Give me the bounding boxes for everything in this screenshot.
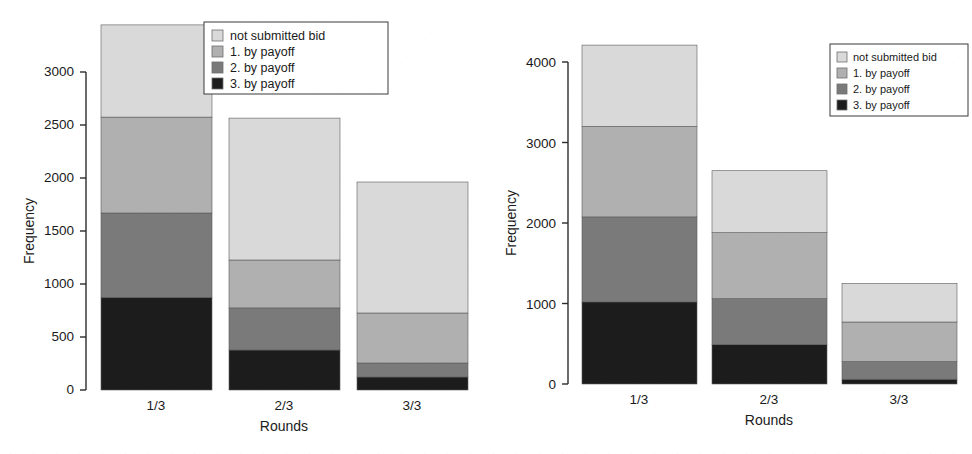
right-legend-swatch-not-submitted-bid [837, 52, 847, 62]
left-ytick-1000: 1000 [44, 276, 74, 291]
right-legend-swatch-1-by-payoff [837, 68, 847, 78]
right-ytick-3000: 3000 [526, 136, 556, 151]
left-x-axis-label: Rounds [260, 418, 308, 434]
right-ytick-0: 0 [548, 377, 556, 392]
left-legend-label-3-by-payoff: 3. by payoff [230, 77, 295, 91]
left-chart-svg: 3000 2500 2000 1500 1000 500 0 Frequency [0, 0, 486, 454]
left-y-axis-label: Frequency [21, 198, 37, 264]
right-legend-label-not-submitted-bid: not submitted bid [853, 51, 937, 63]
left-ytick-2000: 2000 [44, 170, 74, 185]
left-legend[interactable]: not submitted bid 1. by payoff 2. by pay… [204, 22, 388, 94]
left-legend-label-1-by-payoff: 1. by payoff [230, 45, 295, 59]
left-ytick-1500: 1500 [44, 223, 74, 238]
right-bar3-seg-1-by-payoff [842, 322, 957, 362]
right-ytick-4000: 4000 [526, 55, 556, 70]
left-xtick-2-3: 2/3 [275, 398, 294, 413]
left-bar2-seg-1-by-payoff [229, 260, 340, 308]
right-legend-label-2-by-payoff: 2. by payoff [853, 83, 911, 95]
right-legend[interactable]: not submitted bid 1. by payoff 2. by pay… [830, 44, 968, 116]
left-ytick-0: 0 [66, 382, 74, 397]
right-chart-panel: 4000 3000 2000 1000 0 Frequency [486, 0, 972, 454]
left-legend-label-not-submitted-bid: not submitted bid [230, 29, 325, 43]
right-legend-label-1-by-payoff: 1. by payoff [853, 67, 911, 79]
right-ytick-1000: 1000 [526, 297, 556, 312]
left-bar3-seg-1-by-payoff [357, 313, 468, 363]
right-bar3-seg-not-submitted-bid [842, 283, 957, 322]
right-bar3-seg-3-by-payoff [842, 379, 957, 384]
right-bar2-seg-1-by-payoff [712, 233, 827, 299]
left-legend-swatch-3-by-payoff [212, 78, 223, 89]
right-bar1-seg-not-submitted-bid [582, 45, 697, 126]
right-ytick-2000: 2000 [526, 216, 556, 231]
left-legend-swatch-not-submitted-bid [212, 30, 223, 41]
left-bar2-seg-not-submitted-bid [229, 118, 340, 260]
right-x-axis-label: Rounds [745, 412, 793, 428]
right-chart-svg: 4000 3000 2000 1000 0 Frequency [486, 0, 972, 454]
left-bar-group-2 [229, 118, 340, 390]
right-bar-group-1 [582, 45, 697, 384]
right-legend-swatch-2-by-payoff [837, 84, 847, 94]
right-legend-label-3-by-payoff: 3. by payoff [853, 99, 911, 111]
right-y-axis [562, 62, 568, 384]
right-legend-swatch-3-by-payoff [837, 100, 847, 110]
left-bar3-seg-2-by-payoff [357, 363, 468, 377]
left-bar1-seg-not-submitted-bid [101, 25, 212, 117]
right-xtick-3-3: 3/3 [890, 392, 909, 407]
left-bar1-seg-2-by-payoff [101, 213, 212, 297]
figure-container: 3000 2500 2000 1500 1000 500 0 Frequency [0, 0, 972, 454]
left-bar-group-1 [101, 25, 212, 390]
right-y-axis-label: Frequency [503, 190, 519, 256]
right-bar1-seg-1-by-payoff [582, 126, 697, 216]
left-bar3-seg-not-submitted-bid [357, 182, 468, 313]
left-bar1-seg-1-by-payoff [101, 117, 212, 213]
left-ytick-2500: 2500 [44, 117, 74, 132]
left-bar1-seg-3-by-payoff [101, 297, 212, 390]
left-legend-swatch-2-by-payoff [212, 62, 223, 73]
left-chart-panel: 3000 2500 2000 1500 1000 500 0 Frequency [0, 0, 486, 454]
right-bar2-seg-3-by-payoff [712, 345, 827, 384]
right-bar-group-2 [712, 171, 827, 384]
right-bar3-seg-2-by-payoff [842, 362, 957, 380]
left-bar-group-3 [357, 182, 468, 390]
left-xtick-3-3: 3/3 [403, 398, 422, 413]
right-xtick-2-3: 2/3 [760, 392, 779, 407]
right-bar1-seg-2-by-payoff [582, 217, 697, 302]
left-ytick-500: 500 [51, 329, 74, 344]
right-xtick-1-3: 1/3 [630, 392, 649, 407]
right-bar2-seg-not-submitted-bid [712, 171, 827, 233]
right-bar2-seg-2-by-payoff [712, 299, 827, 345]
left-legend-label-2-by-payoff: 2. by payoff [230, 61, 295, 75]
left-bar2-seg-3-by-payoff [229, 350, 340, 390]
right-bar-group-3 [842, 283, 957, 384]
left-ytick-3000: 3000 [44, 64, 74, 79]
left-xtick-1-3: 1/3 [147, 398, 166, 413]
left-bar2-seg-2-by-payoff [229, 308, 340, 350]
left-legend-swatch-1-by-payoff [212, 46, 223, 57]
left-y-axis [80, 72, 86, 390]
right-bar1-seg-3-by-payoff [582, 302, 697, 384]
left-bar3-seg-3-by-payoff [357, 377, 468, 390]
